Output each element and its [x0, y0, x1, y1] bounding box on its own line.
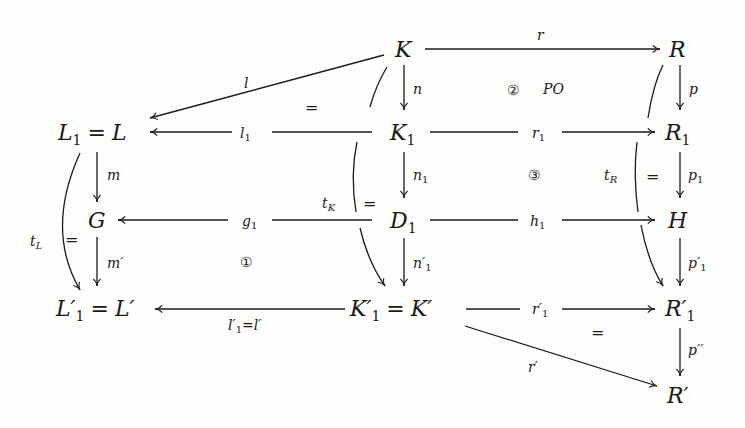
edge-tR-seg2 — [635, 142, 638, 212]
label-l: l — [244, 75, 248, 91]
label-l1-prime-eq-l-prime: l′1=l′ — [228, 317, 262, 335]
node-Rp: R′ — [666, 383, 689, 408]
pushout-label: PO — [542, 81, 564, 97]
label-r1: r1 — [532, 125, 545, 143]
node-R1p: R′1 — [664, 296, 695, 324]
label-p1: p1 — [688, 167, 703, 185]
node-R: R — [668, 37, 686, 62]
label-m-prime: m′ — [107, 255, 124, 271]
label-n1-prime: n′1 — [413, 255, 432, 273]
node-K1: K1 — [389, 120, 415, 148]
label-r-prime: r′ — [528, 359, 539, 375]
node-K1p-eq-Kp: K′1=K′ — [349, 296, 432, 324]
edge-tR-seg1 — [648, 65, 663, 118]
edge-tR-seg3 — [641, 225, 663, 286]
edge-r-prime — [465, 326, 657, 386]
label-p-double-prime: p′′ — [688, 342, 704, 358]
node-H: H — [667, 208, 688, 233]
label-g1: g1 — [242, 213, 257, 231]
label-n: n — [413, 81, 422, 97]
equals-top-left: = — [305, 98, 318, 117]
circled-3: ③ — [528, 167, 541, 183]
label-r1-prime: r′1 — [532, 301, 548, 319]
node-G: G — [88, 208, 106, 233]
label-p1-prime: p′1 — [688, 255, 707, 273]
circled-2: ② — [507, 82, 520, 98]
node-R1: R1 — [664, 120, 691, 148]
edge-tK-seg3 — [360, 228, 385, 286]
label-tL: tL — [30, 233, 43, 251]
edge-tL — [63, 153, 81, 290]
label-l1: l1 — [240, 125, 251, 143]
label-r: r — [537, 27, 545, 43]
label-n1: n1 — [413, 167, 428, 185]
node-L1-eq-L: L1=L — [57, 120, 127, 148]
label-tK: tK — [322, 195, 336, 213]
node-D1: D1 — [389, 208, 417, 236]
equals-bottom-right: = — [591, 323, 604, 342]
edge-tK-seg1 — [370, 67, 387, 107]
equals-tR: = — [646, 167, 659, 186]
label-tR: tR — [604, 167, 618, 185]
equals-tL: = — [65, 230, 78, 249]
edge-l — [150, 55, 384, 118]
label-m: m — [107, 167, 120, 183]
label-h1: h1 — [530, 213, 545, 231]
node-L1p-eq-Lp: L′1=L′ — [55, 296, 135, 324]
node-K: K — [394, 37, 413, 62]
circled-1: ① — [240, 254, 253, 270]
equals-tK: = — [363, 194, 376, 213]
edge-tK-seg2 — [353, 142, 357, 212]
label-p: p — [689, 81, 698, 97]
commutative-diagram: K R L1=L K1 R1 G D1 H L′1=L′ K′1=K′ R′1 … — [0, 0, 745, 428]
